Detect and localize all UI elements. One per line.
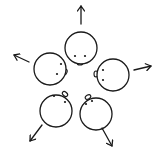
heads-group [34,32,129,130]
arrow-down-left-icon [30,125,42,141]
head-bottom-right [80,94,112,130]
heads-ring-diagram [0,0,158,156]
eye-dot [56,73,58,75]
head-left [34,53,68,85]
eye-dot [60,63,62,65]
head-outline [80,98,112,130]
eye-dot [84,55,86,57]
head-outline [34,53,66,85]
head-outline [97,59,129,91]
eye-dot [102,79,104,81]
head-top [65,32,97,65]
arrow-left-icon [14,55,29,62]
arrows-group [14,6,151,146]
eye-dot [102,69,104,71]
head-right [94,59,129,91]
head-outline [40,95,72,127]
eye-dot [74,55,76,57]
head-bottom-left [40,91,72,127]
arrow-right-icon [134,66,151,70]
diagram-canvas: Five heads viewed from above arranged in… [0,0,158,156]
eye-dot [91,100,93,102]
eye-dot [53,95,55,97]
arrow-down-right-icon [102,128,112,146]
eye-dot [85,103,87,105]
head-outline [65,32,97,64]
eye-dot [64,101,66,103]
